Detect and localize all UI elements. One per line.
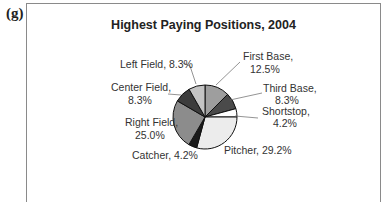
label-catcher: Catcher, 4.2% [132, 149, 198, 161]
pie-slices [173, 85, 237, 149]
label-shortstop: Shortstop, [262, 105, 310, 117]
label-third-base: Third Base, [263, 82, 317, 94]
pie-chart: First Base, 12.5% Third Base, 8.3% Short… [0, 0, 385, 202]
label-first-base: First Base, [243, 50, 293, 62]
label-left-field: Left Field, 8.3% [120, 58, 193, 70]
label-shortstop-value: 4.2% [273, 117, 297, 129]
label-first-base-value: 12.5% [250, 63, 280, 75]
label-center-field: Center Field, [111, 81, 171, 93]
label-right-field: Right Field, [125, 116, 178, 128]
label-pitcher: Pitcher, 29.2% [224, 144, 292, 156]
label-center-field-value: 8.3% [128, 94, 152, 106]
label-right-field-value: 25.0% [135, 129, 165, 141]
